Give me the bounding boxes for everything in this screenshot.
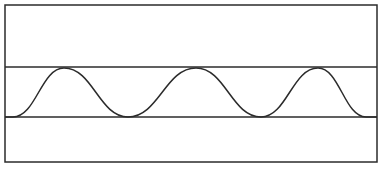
waveform-diagram xyxy=(0,0,381,173)
waveform-curve xyxy=(5,68,377,117)
outer-frame xyxy=(5,5,377,162)
